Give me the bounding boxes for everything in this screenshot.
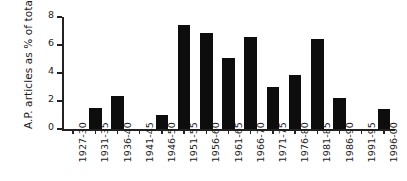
y-axis-tick-label: 2 [48,93,54,104]
x-axis-tick-label: 1936-40 [122,122,133,162]
y-axis-tick-label: 0 [48,121,54,132]
x-axis-tick-mark [317,129,318,134]
x-axis-tick-label: 1941-45 [144,122,155,162]
bar [178,25,190,129]
x-axis-tick-label: 1976-80 [299,122,310,162]
x-axis-tick-mark [383,129,384,134]
y-axis-tick-label: 8 [48,9,54,20]
x-axis-tick-mark [272,129,273,134]
x-axis-tick-label: 1996-00 [388,122,399,162]
x-axis-tick-label: 1981-85 [321,122,332,162]
bar [222,58,234,129]
x-axis-tick-mark [117,129,118,134]
y-axis-title: A.P. articles as % of total [22,0,34,138]
x-axis-tick-mark [339,129,340,134]
x-axis-tick-label: 1986-90 [344,122,355,162]
x-axis-tick-label: 1927-30 [77,122,88,162]
x-axis-tick-mark [228,129,229,134]
x-axis-tick-mark [206,129,207,134]
x-axis-tick-mark [139,129,140,134]
x-axis-tick-label: 1956-60 [210,122,221,162]
x-axis-tick-label: 1971-75 [277,122,288,162]
bar [244,37,256,129]
bar [200,33,212,129]
y-axis-tick-label: 4 [48,65,54,76]
bar [311,39,323,129]
bar-chart: A.P. articles as % of total 02468 1927-3… [0,0,407,181]
x-axis-tick-mark [95,129,96,134]
bar [289,75,301,129]
x-axis-tick-mark [183,129,184,134]
x-axis-tick-label: 1931-35 [99,122,110,162]
x-axis-tick-mark [361,129,362,134]
x-axis-tick-mark [250,129,251,134]
x-axis-tick-label: 1966-70 [255,122,266,162]
x-axis-tick-label: 1951-55 [188,122,199,162]
x-axis-tick-label: 1961-65 [233,122,244,162]
bars-layer [62,17,395,129]
x-axis-tick-label: 1946-50 [166,122,177,162]
x-axis-tick-mark [161,129,162,134]
x-axis-tick-label: 1991-95 [366,122,377,162]
y-axis-tick-label: 6 [48,37,54,48]
plot-area: 02468 [62,17,395,129]
x-axis-tick-mark [294,129,295,134]
x-axis-tick-mark [72,129,73,134]
